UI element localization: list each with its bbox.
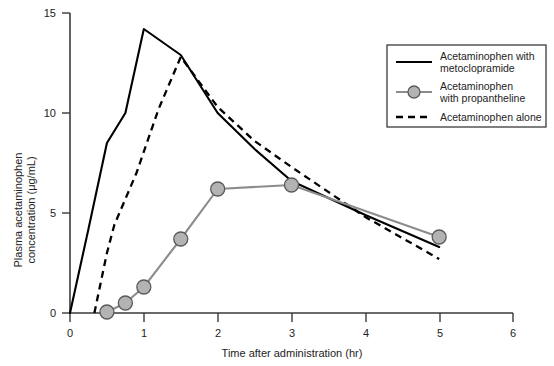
chart-svg: 0 5 10 15 0 1 2 3 4 5 6 Time after admin… <box>0 0 554 366</box>
data-point-marker <box>118 296 132 310</box>
x-tick-label-1: 1 <box>141 327 147 339</box>
y-axis-ticks: 0 5 10 15 <box>44 7 70 319</box>
chart-container: 0 5 10 15 0 1 2 3 4 5 6 Time after admin… <box>0 0 554 366</box>
x-tick-label-5: 5 <box>437 327 443 339</box>
series-propantheline-markers <box>100 178 446 319</box>
series-acetaminophen-with-metoclopramide <box>70 29 439 313</box>
x-tick-label-3: 3 <box>289 327 295 339</box>
x-tick-label-2: 2 <box>215 327 221 339</box>
x-axis-title: Time after administration (hr) <box>222 347 363 359</box>
data-point-marker <box>100 305 114 319</box>
series-acetaminophen-with-propantheline <box>107 185 439 312</box>
y-axis-title: Plasma acetaminophen concentration (μg/m… <box>12 153 37 268</box>
data-point-marker <box>174 232 188 246</box>
data-point-marker <box>432 230 446 244</box>
y-axis-title-line2: concentration (μg/mL) <box>25 156 37 263</box>
y-axis-title-line1: Plasma acetaminophen <box>12 153 24 268</box>
x-tick-label-4: 4 <box>363 327 369 339</box>
y-tick-label-15: 15 <box>44 7 56 19</box>
data-point-marker <box>285 178 299 192</box>
legend-label-alone: Acetaminophen alone <box>440 111 542 123</box>
legend-label-metoclopramide-line2: metoclopramide <box>440 62 515 74</box>
x-tick-label-6: 6 <box>510 327 516 339</box>
x-tick-label-0: 0 <box>67 327 73 339</box>
y-tick-label-0: 0 <box>50 307 56 319</box>
legend: Acetaminophen with metoclopramide Acetam… <box>387 45 546 127</box>
data-point-marker <box>137 280 151 294</box>
y-tick-label-5: 5 <box>50 207 56 219</box>
legend-label-propantheline-line1: Acetaminophen <box>440 80 513 92</box>
x-axis-ticks: 0 1 2 3 4 5 6 <box>67 313 516 339</box>
legend-label-metoclopramide-line1: Acetaminophen with <box>440 50 535 62</box>
legend-label-propantheline-line2: with propantheline <box>439 92 525 104</box>
y-tick-label-10: 10 <box>44 107 56 119</box>
data-point-marker <box>211 182 225 196</box>
legend-swatch-circle-marker-icon <box>408 86 420 98</box>
